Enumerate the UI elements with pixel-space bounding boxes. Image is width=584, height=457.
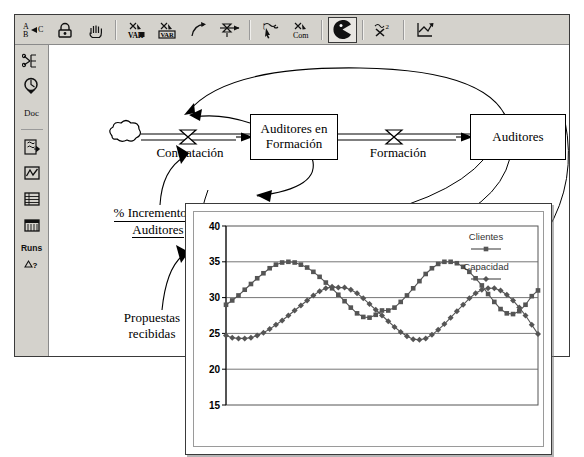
legend-label-capacidad: Capacidad <box>463 261 508 272</box>
stock-auditores-en-formacion[interactable]: Auditores en Formación <box>250 114 338 160</box>
toolbar-separator <box>115 20 117 40</box>
delete-tool[interactable] <box>328 17 357 43</box>
stock-auditores[interactable]: Auditores <box>470 114 566 160</box>
y-axis-tick-label: 15 <box>209 400 221 411</box>
sidebar-item-table[interactable] <box>18 186 46 211</box>
sidebar-item-causes-strip[interactable] <box>18 134 46 159</box>
rate-flow-tool[interactable] <box>215 17 244 43</box>
toolbar-separator <box>403 20 405 40</box>
toolbar-separator <box>362 20 364 40</box>
toolbar-separator <box>249 20 251 40</box>
equation-tool[interactable]: 2 <box>369 17 398 43</box>
valve-formacion-icon <box>386 130 402 144</box>
runs-compare-glyph: ? <box>23 255 41 273</box>
toolbar-separator <box>321 20 323 40</box>
sidebar-item-document: Doc <box>18 100 46 125</box>
main-toolbar: A B C VAR <box>15 15 569 45</box>
abc-text-tool[interactable]: A B C <box>19 17 48 43</box>
y-axis-tick-label: 25 <box>209 328 221 339</box>
variable-tool[interactable]: VAR <box>122 17 151 43</box>
sidebar-separator <box>21 129 43 130</box>
stock-label: Auditores <box>492 130 543 145</box>
aux-label-line2: recibidas <box>129 326 176 341</box>
box-variable-tool[interactable]: VAR <box>153 17 182 43</box>
arrow-tool[interactable] <box>184 17 213 43</box>
svg-text:B: B <box>23 30 28 39</box>
lock-tool[interactable] <box>50 17 79 43</box>
sidebar-item-label: Runs <box>21 243 42 253</box>
aux-label-line1: Propuestas <box>124 310 180 325</box>
svg-text:2: 2 <box>385 23 389 31</box>
graph-plot-area: 403530252015ClientesCapacidad <box>193 211 544 447</box>
sidebar-item-table-time[interactable] <box>18 212 46 237</box>
flow-label-contratacion: Contratación <box>140 146 240 161</box>
valve-contratacion-icon <box>180 130 196 144</box>
shadow-variable-tool[interactable]: ❲ <box>256 17 285 43</box>
aux-label-line2: Auditores <box>132 222 183 239</box>
hand-move-tool[interactable] <box>81 17 110 43</box>
comment-tool[interactable]: Com <box>287 17 316 43</box>
graph-output-window[interactable]: 403530252015ClientesCapacidad <box>185 203 552 455</box>
svg-text:C: C <box>38 25 43 34</box>
y-axis-tick-label: 30 <box>209 292 221 303</box>
sidebar-item-causes-tree[interactable] <box>18 48 46 73</box>
y-axis-tick-label: 20 <box>209 364 221 375</box>
left-tool-sidebar: Doc <box>15 45 49 356</box>
flow-label-formacion: Formación <box>348 146 448 161</box>
legend-label-clientes: Clientes <box>469 231 504 242</box>
svg-text:Com: Com <box>293 31 309 40</box>
y-axis-tick-label: 40 <box>209 221 221 232</box>
line-chart: 403530252015ClientesCapacidad <box>194 212 545 448</box>
reference-modes-tool[interactable] <box>410 17 439 43</box>
svg-text:?: ? <box>32 261 37 270</box>
sidebar-item-uses[interactable] <box>18 74 46 99</box>
cloud-source-icon <box>110 121 141 142</box>
stock-label: Auditores en Formación <box>261 122 328 151</box>
sidebar-item-label: Doc <box>24 108 39 118</box>
sidebar-item-graph[interactable] <box>18 160 46 185</box>
y-axis-tick-label: 35 <box>209 256 221 267</box>
svg-text:VAR: VAR <box>160 31 174 38</box>
